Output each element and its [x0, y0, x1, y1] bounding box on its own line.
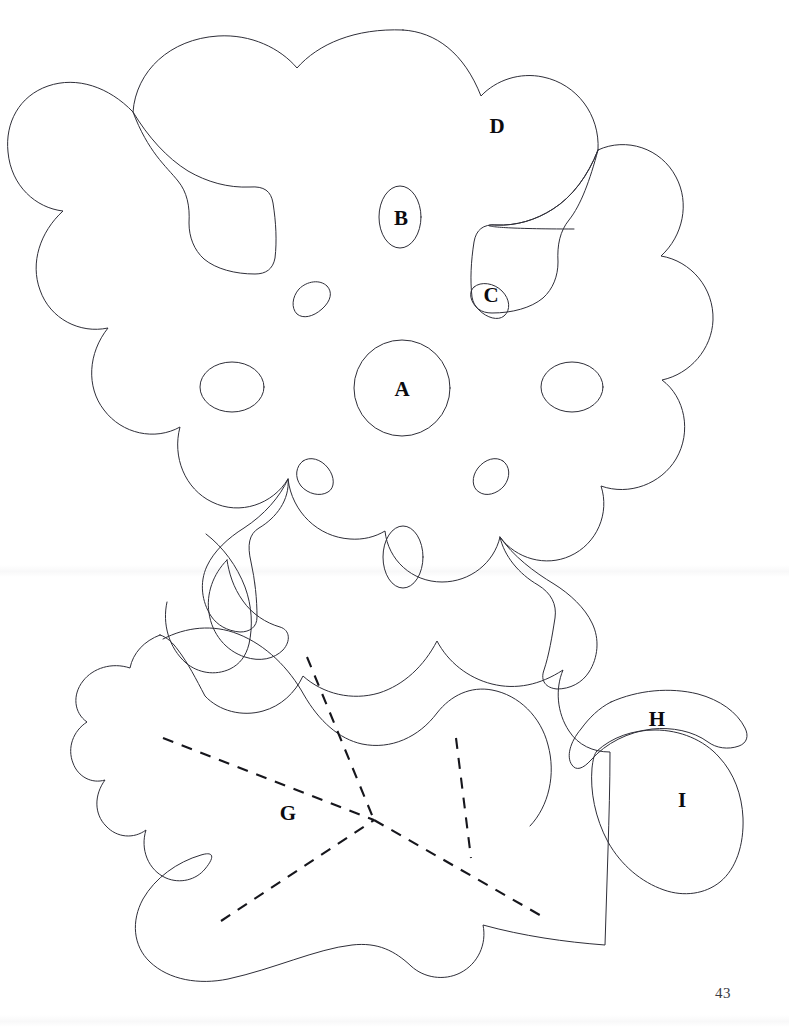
fold-line-vertical [456, 738, 471, 858]
label-B: B [394, 208, 408, 229]
label-A: A [394, 379, 409, 400]
lower-leaf-body-outline [71, 635, 610, 981]
right-oval-opening [541, 362, 603, 412]
label-G: G [280, 803, 296, 824]
lower-leaf-upper-edge [163, 628, 551, 826]
label-I: I [678, 790, 686, 811]
lower-oval-opening [383, 526, 423, 588]
main-lobed-body-outline [8, 30, 713, 582]
page-number: 43 [715, 985, 731, 1002]
lower-left-inner-pocket [202, 479, 288, 632]
label-H: H [649, 709, 665, 730]
lower-leaf-inner-loop [208, 560, 288, 659]
lower-right-triangular-opening [473, 459, 509, 495]
lower-left-triangular-opening [297, 459, 334, 495]
label-C: C [483, 285, 498, 306]
fold-line-lower-left [221, 820, 374, 921]
line-drawing-figure [0, 0, 789, 1036]
figure-page: A B C D G H I 43 [0, 0, 789, 1036]
fold-line-upper [307, 657, 374, 820]
lower-right-inner-pocket [500, 537, 597, 689]
acorn-body-outline [592, 730, 744, 894]
label-D: D [489, 116, 504, 137]
fold-line-left [163, 738, 374, 820]
upper-left-inner-pocket [133, 112, 276, 274]
fold-line-lower-right [374, 820, 545, 918]
left-oval-opening [200, 362, 264, 412]
upper-left-triangular-opening [293, 282, 330, 317]
